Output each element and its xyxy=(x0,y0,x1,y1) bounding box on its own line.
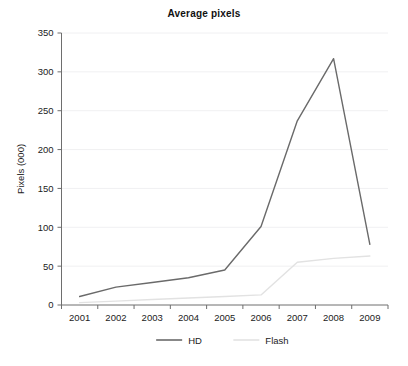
x-axis: 200120022003200420052006200720082009 xyxy=(62,305,389,323)
x-tick-label: 2009 xyxy=(359,312,380,323)
chart-legend: HDFlash xyxy=(156,335,288,346)
y-tick-label: 50 xyxy=(43,261,54,272)
x-tick-label: 2003 xyxy=(142,312,163,323)
x-tick-label: 2005 xyxy=(214,312,235,323)
y-tick-label: 200 xyxy=(38,144,54,155)
series-line-hd xyxy=(80,59,370,297)
y-axis: 050100150200250300350 xyxy=(38,27,62,310)
chart-container: Average pixels 050100150200250300350 200… xyxy=(0,0,408,366)
legend-label-flash: Flash xyxy=(265,335,288,346)
series-line-flash xyxy=(80,256,370,303)
x-tick-label: 2004 xyxy=(178,312,199,323)
y-tick-label: 0 xyxy=(48,299,53,310)
x-tick-label: 2002 xyxy=(105,312,126,323)
legend-label-hd: HD xyxy=(188,335,202,346)
y-tick-label: 100 xyxy=(38,222,54,233)
y-tick-label: 350 xyxy=(38,27,54,38)
line-chart-plot: 050100150200250300350 200120022003200420… xyxy=(0,0,408,366)
x-tick-label: 2001 xyxy=(69,312,90,323)
y-tick-label: 150 xyxy=(38,183,54,194)
y-axis-title: Pixels (000) xyxy=(15,144,26,194)
x-tick-label: 2006 xyxy=(250,312,271,323)
x-tick-label: 2007 xyxy=(287,312,308,323)
x-tick-label: 2008 xyxy=(323,312,344,323)
y-tick-label: 300 xyxy=(38,66,54,77)
y-tick-label: 250 xyxy=(38,105,54,116)
gridlines xyxy=(62,33,389,266)
y-axis-title-text: Pixels (000) xyxy=(15,144,26,194)
